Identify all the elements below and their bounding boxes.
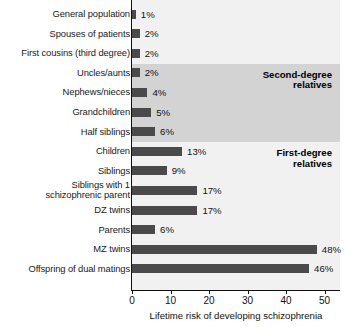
bar-value-label: 2% bbox=[145, 68, 159, 77]
bar-value-label: 2% bbox=[145, 29, 159, 38]
category-label: Half siblings bbox=[81, 127, 130, 137]
bar[interactable] bbox=[132, 245, 317, 254]
y-axis-line bbox=[131, 0, 132, 290]
x-axis-line bbox=[131, 290, 340, 291]
category-label: First cousins (third degree) bbox=[21, 48, 130, 58]
bar[interactable] bbox=[132, 29, 140, 38]
bar-value-label: 6% bbox=[160, 127, 174, 136]
bar[interactable] bbox=[132, 264, 309, 273]
bar-value-label: 17% bbox=[202, 206, 221, 215]
bar-value-label: 48% bbox=[322, 245, 341, 254]
x-axis-title: Lifetime risk of developing schizophreni… bbox=[132, 310, 340, 321]
bar-chart: General populationSpouses of patientsFir… bbox=[0, 0, 346, 327]
first-degree-annotation: First-degree relatives bbox=[277, 148, 332, 169]
x-axis-tick-label: 10 bbox=[159, 295, 183, 306]
bar-value-label: 1% bbox=[141, 10, 155, 19]
bar-value-label: 9% bbox=[172, 166, 186, 175]
category-label: Grandchildren bbox=[72, 107, 130, 117]
bar[interactable] bbox=[132, 147, 182, 156]
bar[interactable] bbox=[132, 49, 140, 58]
bar-value-label: 46% bbox=[314, 264, 333, 273]
category-label: DZ twins bbox=[94, 205, 130, 215]
x-axis-tick-label: 50 bbox=[313, 295, 337, 306]
category-label: Siblings bbox=[98, 166, 130, 176]
x-axis-tick-label: 0 bbox=[120, 295, 144, 306]
category-label: General population bbox=[53, 9, 130, 19]
bar[interactable] bbox=[132, 108, 151, 117]
x-axis-tick bbox=[132, 290, 133, 294]
bar-value-label: 17% bbox=[202, 186, 221, 195]
bar[interactable] bbox=[132, 127, 155, 136]
x-axis-tick-label: 30 bbox=[236, 295, 260, 306]
bar-value-label: 4% bbox=[152, 88, 166, 97]
x-axis-tick bbox=[209, 290, 210, 294]
category-label: Parents bbox=[98, 225, 130, 235]
category-label: Nephews/nieces bbox=[63, 87, 130, 97]
bar-value-label: 6% bbox=[160, 225, 174, 234]
category-label: Uncles/aunts bbox=[77, 68, 130, 78]
category-label: Spouses of patients bbox=[50, 29, 130, 39]
bar[interactable] bbox=[132, 166, 167, 175]
bar[interactable] bbox=[132, 10, 136, 19]
bar[interactable] bbox=[132, 68, 140, 77]
plot-area: 1%2%2%2%4%5%6%13%9%17%17%6%48%46%Second-… bbox=[132, 0, 340, 290]
x-axis-tick bbox=[286, 290, 287, 294]
x-axis-tick bbox=[248, 290, 249, 294]
bar[interactable] bbox=[132, 186, 197, 195]
x-axis-tick bbox=[325, 290, 326, 294]
bar[interactable] bbox=[132, 225, 155, 234]
x-axis-tick-label: 20 bbox=[197, 295, 221, 306]
category-label: Siblings with 1 schizophrenic parent bbox=[45, 180, 130, 200]
bar[interactable] bbox=[132, 88, 147, 97]
category-label: Offspring of dual matings bbox=[28, 264, 130, 274]
bar-value-label: 2% bbox=[145, 49, 159, 58]
bar-value-label: 13% bbox=[187, 147, 206, 156]
bar[interactable] bbox=[132, 206, 197, 215]
category-label-column: General populationSpouses of patientsFir… bbox=[0, 0, 130, 290]
bar-value-label: 5% bbox=[156, 108, 170, 117]
category-label: Children bbox=[96, 146, 130, 156]
x-axis-tick bbox=[171, 290, 172, 294]
second-degree-annotation: Second-degree relatives bbox=[263, 70, 332, 91]
category-label: MZ twins bbox=[93, 244, 130, 254]
x-axis-tick-label: 40 bbox=[274, 295, 298, 306]
